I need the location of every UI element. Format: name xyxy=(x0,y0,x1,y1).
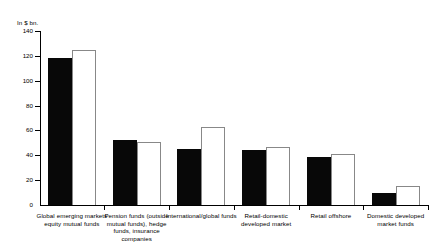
category-label: Global emerging markets equity mutual fu… xyxy=(37,212,108,227)
y-tick-label: 120 xyxy=(11,53,33,59)
y-tick-label: 100 xyxy=(11,78,33,84)
y-tick-mark xyxy=(35,106,40,107)
bar xyxy=(177,149,201,205)
bar xyxy=(137,142,161,205)
x-tick-mark xyxy=(363,206,364,210)
y-tick-mark xyxy=(35,81,40,82)
y-tick-label: 80 xyxy=(11,103,33,109)
bar xyxy=(48,58,72,205)
y-tick-label-wrap: 80 xyxy=(9,106,33,107)
y-tick-mark xyxy=(35,130,40,131)
bar xyxy=(396,186,420,205)
y-tick-mark xyxy=(35,155,40,156)
y-tick-label: 20 xyxy=(11,177,33,183)
y-tick-label: 60 xyxy=(11,127,33,133)
bar xyxy=(201,127,225,205)
y-tick-mark xyxy=(35,180,40,181)
x-tick-mark xyxy=(104,206,105,210)
bar xyxy=(307,157,331,205)
category-label: Retail offshore xyxy=(296,212,367,220)
y-tick-label-wrap: 20 xyxy=(9,180,33,181)
y-tick-mark xyxy=(35,31,40,32)
category-label: International/global funds xyxy=(166,212,237,220)
category-label: Retail-domestic developed market xyxy=(231,212,302,227)
y-tick-label: 140 xyxy=(11,28,33,34)
y-tick-label-wrap: 40 xyxy=(9,155,33,156)
x-tick-mark xyxy=(169,206,170,210)
bar xyxy=(266,147,290,205)
category-label: Domestic developed market funds xyxy=(360,212,431,227)
y-tick-label: 40 xyxy=(11,152,33,158)
category-label: Pension funds (outside mutual funds), he… xyxy=(101,212,172,242)
x-tick-mark xyxy=(234,206,235,210)
y-tick-label-wrap: 100 xyxy=(9,81,33,82)
bar xyxy=(113,140,137,205)
bar-chart: In $ bn. 020406080100120140 Global emerg… xyxy=(0,0,436,249)
x-tick-mark xyxy=(428,206,429,210)
y-axis-unit-label: In $ bn. xyxy=(17,19,38,26)
bar xyxy=(242,150,266,205)
bar xyxy=(72,50,96,205)
bar xyxy=(331,154,355,205)
y-tick-label-wrap: 120 xyxy=(9,56,33,57)
y-tick-label: 0 xyxy=(11,202,33,208)
y-tick-label-wrap: 140 xyxy=(9,31,33,32)
y-tick-label-wrap: 60 xyxy=(9,130,33,131)
bar xyxy=(372,193,396,205)
y-tick-label-wrap: 0 xyxy=(9,205,33,206)
y-tick-mark xyxy=(35,56,40,57)
x-tick-mark xyxy=(299,206,300,210)
